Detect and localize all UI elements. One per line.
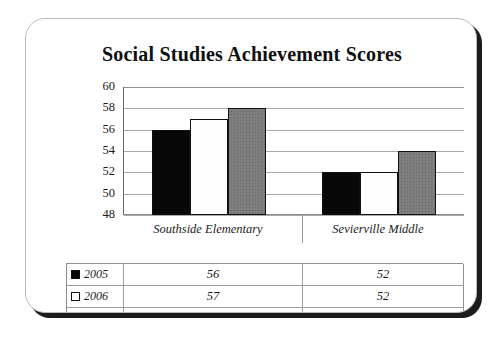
table-row: 20075854 [67,308,464,313]
y-axis-tick-48: 48 [103,207,116,222]
chart-card: Social Studies Achievement Scores 605856… [25,18,477,313]
bar-group-1 [294,87,464,215]
bar-group-0 [124,87,294,215]
bar-2005-1[interactable] [322,172,360,215]
category-label-1: Sevierville Middle [293,215,463,243]
table-cell-2007-1: 54 [303,308,464,313]
table-cell-2005-0: 56 [124,264,303,285]
legend-label-2007: 2007 [84,311,108,313]
legend-swatch-icon-2005 [71,270,80,279]
y-axis-tick-54: 54 [103,143,116,158]
table-cell-2006-1: 52 [303,286,464,307]
data-table: 200556522006575220075854 [66,263,463,313]
bar-2007-0[interactable] [228,108,266,215]
table-row: 20065752 [67,286,464,308]
legend-label-2005: 2005 [84,267,108,282]
page-title: Social Studies Achievement Scores [26,43,477,66]
y-axis-tick-labels: 60585654525048 [73,87,119,215]
plot-area [123,87,463,215]
bar-2006-0[interactable] [190,119,228,215]
legend-label-2006: 2006 [84,289,108,304]
y-axis-tick-56: 56 [103,122,116,137]
category-label-row: Southside ElementarySevierville Middle [123,215,463,243]
bar-2006-1[interactable] [360,172,398,215]
legend-swatch-icon-2006 [71,292,80,301]
table-cell-2006-0: 57 [124,286,303,307]
y-axis-tick-50: 50 [103,186,116,201]
legend-item-2005[interactable]: 2005 [67,264,124,285]
table-cell-2007-0: 58 [124,308,303,313]
table-row: 20055652 [67,264,464,286]
bar-2005-0[interactable] [152,130,190,215]
table-cell-2005-1: 52 [303,264,464,285]
y-axis-tick-52: 52 [103,165,116,180]
bar-2007-1[interactable] [398,151,436,215]
legend-item-2007[interactable]: 2007 [67,308,124,313]
y-axis-tick-60: 60 [103,79,116,94]
legend-item-2006[interactable]: 2006 [67,286,124,307]
category-label-0: Southside Elementary [123,215,293,243]
y-axis-tick-58: 58 [103,101,116,116]
